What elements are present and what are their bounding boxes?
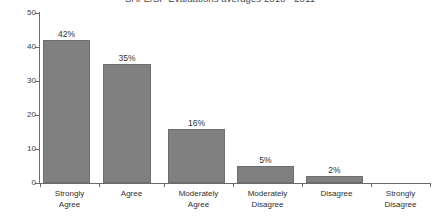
bar-moderately-agree[interactable]	[168, 129, 225, 183]
y-tick-label-40: 40	[27, 41, 36, 52]
category-label-strongly-disagree: Strongly Disagree	[371, 189, 430, 210]
bar-disagree[interactable]	[306, 176, 363, 183]
y-tick-label-30: 30	[27, 75, 36, 86]
bar-agree[interactable]	[103, 64, 151, 183]
chart-title: SAFE/SP Evaluations averages 2010 - 2011	[0, 0, 440, 4]
chart-screenshot: SAFE/SP Evaluations averages 2010 - 2011…	[0, 0, 440, 217]
x-tick-5	[371, 183, 372, 187]
y-tick-label-0: 0	[32, 177, 36, 188]
bar-value-moderately-agree: 16%	[168, 118, 225, 128]
category-label-strongly-agree: Strongly Agree	[40, 189, 99, 210]
bar-value-strongly-agree: 42%	[43, 29, 90, 39]
x-tick-1	[99, 183, 100, 187]
bar-moderately-disagree[interactable]	[237, 166, 294, 183]
y-tick-label-50: 50	[27, 7, 36, 18]
y-tick-label-10: 10	[27, 143, 36, 154]
x-tick-6	[430, 183, 431, 187]
y-tick-label-20: 20	[27, 109, 36, 120]
category-label-agree: Agree	[99, 189, 164, 200]
plot-area: 0 10 20 30 40 50 42% 35% 1	[40, 13, 430, 183]
x-tick-0	[40, 183, 41, 187]
bar-value-agree: 35%	[103, 53, 151, 63]
category-label-moderately-agree: Moderately Agree	[164, 189, 233, 210]
bar-strongly-agree[interactable]	[43, 40, 90, 183]
x-tick-2	[164, 183, 165, 187]
bar-value-disagree: 2%	[306, 165, 363, 175]
category-label-disagree: Disagree	[302, 189, 371, 200]
category-label-moderately-disagree: Moderately Disagree	[233, 189, 302, 210]
x-tick-4	[302, 183, 303, 187]
x-tick-3	[233, 183, 234, 187]
bar-value-moderately-disagree: 5%	[237, 155, 294, 165]
